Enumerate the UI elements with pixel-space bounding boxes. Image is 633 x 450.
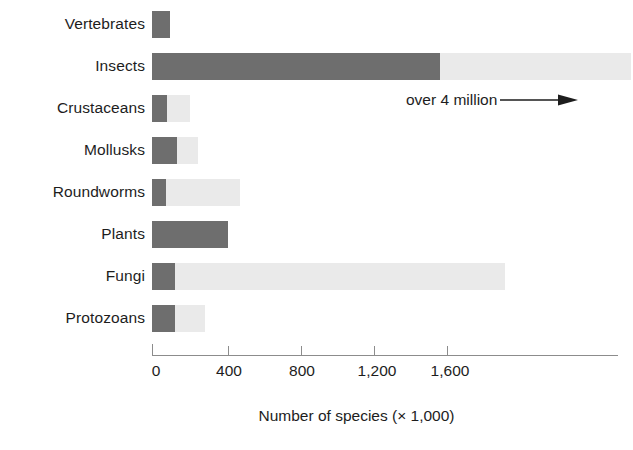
category-label-crustaceans: Crustaceans (0, 100, 145, 116)
x-tick-mark (152, 346, 153, 356)
bar-row (152, 95, 190, 122)
species-bar-chart: Vertebrates Insects Crustaceans Mollusks… (0, 0, 633, 450)
category-label-fungi: Fungi (0, 268, 145, 284)
x-axis-title: Number of species (× 1,000) (0, 408, 633, 424)
bar-row (152, 53, 631, 80)
bar-row (152, 263, 505, 290)
category-label-roundworms: Roundworms (0, 184, 145, 200)
bar-segment-estimated (177, 137, 198, 164)
annotation-over-4-million: over 4 million (406, 92, 580, 108)
bar-row (152, 305, 205, 332)
bar-segment-described (152, 137, 177, 164)
x-tick-label-400: 400 (216, 363, 242, 379)
bar-segment-estimated (175, 263, 504, 290)
arrow-right-icon (498, 93, 580, 107)
bar-segment-estimated (167, 95, 190, 122)
x-tick-mark (374, 346, 375, 356)
x-tick-label-1200: 1,200 (358, 363, 397, 379)
x-tick-mark (228, 346, 229, 356)
bar-segment-estimated (166, 179, 240, 206)
category-label-mollusks: Mollusks (0, 142, 145, 158)
bar-segment-described (152, 221, 228, 248)
bar-segment-described (152, 305, 175, 332)
bar-row (152, 179, 240, 206)
x-axis-line (152, 355, 618, 356)
bar-row (152, 221, 228, 248)
bar-segment-estimated (440, 53, 631, 80)
x-tick-mark (301, 346, 302, 356)
category-label-plants: Plants (0, 226, 145, 242)
plot-area: Vertebrates Insects Crustaceans Mollusks… (0, 0, 633, 360)
bar-row (152, 137, 198, 164)
category-label-protozoans: Protozoans (0, 310, 145, 326)
bar-segment-described (152, 95, 167, 122)
bar-row (152, 11, 170, 38)
bar-segment-described (152, 179, 166, 206)
x-tick-label-0: 0 (152, 363, 161, 379)
bar-segment-described (152, 263, 175, 290)
x-axis-title-text: Number of species (× 1,000) (259, 408, 455, 424)
x-tick-label-1600: 1,600 (431, 363, 470, 379)
x-tick-mark (447, 346, 448, 356)
annotation-label: over 4 million (406, 92, 497, 108)
category-label-insects: Insects (0, 58, 145, 74)
bar-segment-estimated (175, 305, 205, 332)
category-label-vertebrates: Vertebrates (0, 16, 145, 32)
bar-segment-described (152, 53, 440, 80)
x-tick-label-800: 800 (289, 363, 315, 379)
bar-segment-described (152, 11, 170, 38)
